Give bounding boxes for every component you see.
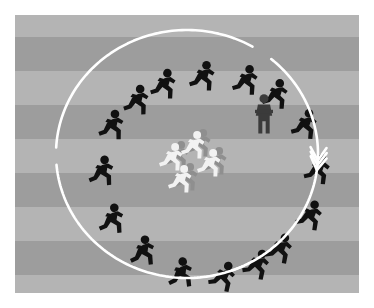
rotation-arc bbox=[57, 165, 243, 278]
circular-arrow-overlay bbox=[15, 15, 359, 293]
rotation-arc bbox=[56, 30, 252, 147]
rotation-arc bbox=[232, 59, 318, 271]
illustration-canvas: Group of pictogram runners circling a sm… bbox=[0, 0, 374, 308]
striped-field bbox=[15, 15, 359, 293]
